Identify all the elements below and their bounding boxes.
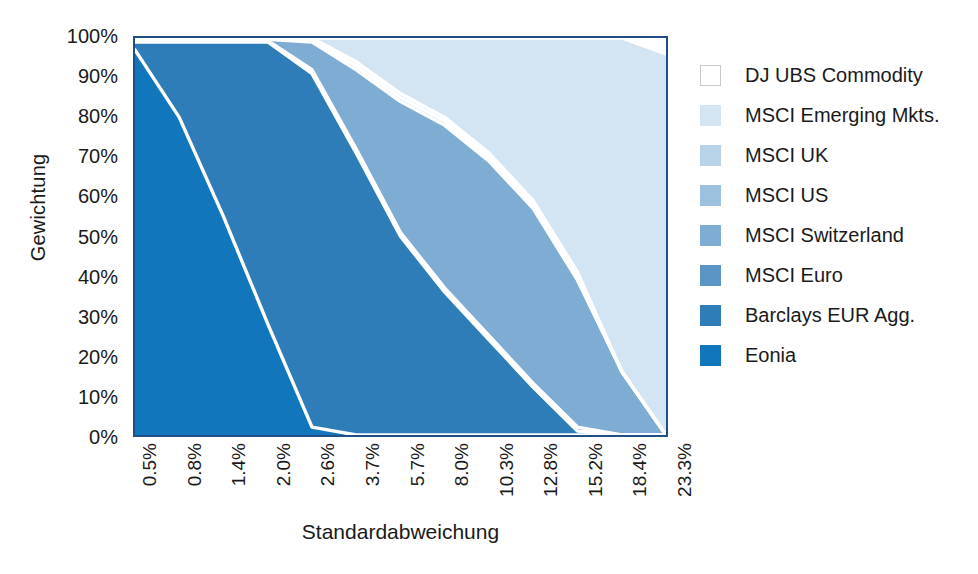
x-axis-tick: 3.7% <box>363 443 382 486</box>
legend-label: MSCI UK <box>745 145 828 165</box>
x-axis-tick-labels: 0.5%0.8%1.4%2.0%2.6%3.7%5.7%8.0%10.3%12.… <box>133 443 668 505</box>
x-axis-tick: 10.3% <box>497 443 516 497</box>
y-axis-tick: 70% <box>78 146 118 166</box>
x-axis-tick: 0.8% <box>185 443 204 486</box>
legend-swatch-icon <box>700 105 721 126</box>
chart-legend: DJ UBS CommodityMSCI Emerging Mkts.MSCI … <box>700 55 972 375</box>
x-axis-tick: 1.4% <box>229 443 248 486</box>
legend-swatch-icon <box>700 145 721 166</box>
y-axis-tick: 10% <box>78 387 118 407</box>
legend-label: MSCI US <box>745 185 828 205</box>
legend-swatch-icon <box>700 265 721 286</box>
x-axis-tick: 8.0% <box>452 443 471 486</box>
legend-swatch-icon <box>700 185 721 206</box>
x-axis-tick: 12.8% <box>541 443 560 497</box>
y-axis-tick: 40% <box>78 267 118 287</box>
y-axis-tick: 90% <box>78 66 118 86</box>
legend-swatch-icon <box>700 225 721 246</box>
stacked-area-svg <box>135 38 666 435</box>
legend-swatch-icon <box>700 305 721 326</box>
y-axis-tick: 100% <box>67 26 118 46</box>
plot-area <box>133 36 668 437</box>
x-axis-tick: 18.4% <box>630 443 649 497</box>
y-axis-tick: 60% <box>78 186 118 206</box>
legend-label: Eonia <box>745 345 796 365</box>
legend-label: DJ UBS Commodity <box>745 65 923 85</box>
legend-item[interactable]: MSCI US <box>700 175 972 215</box>
legend-item[interactable]: MSCI Switzerland <box>700 215 972 255</box>
legend-item[interactable]: Barclays EUR Agg. <box>700 295 972 335</box>
legend-swatch-icon <box>700 65 721 86</box>
x-axis-tick: 2.0% <box>274 443 293 486</box>
x-axis-tick: 23.3% <box>675 443 694 497</box>
legend-label: MSCI Emerging Mkts. <box>745 105 939 125</box>
x-axis-tick: 15.2% <box>586 443 605 497</box>
legend-label: Barclays EUR Agg. <box>745 305 915 325</box>
y-axis-tick: 0% <box>89 427 118 447</box>
y-axis-tick: 20% <box>78 347 118 367</box>
legend-item[interactable]: MSCI Emerging Mkts. <box>700 95 972 135</box>
y-axis-tick-labels: 100%90%80%70%60%50%40%30%20%10%0% <box>36 36 124 437</box>
legend-label: MSCI Euro <box>745 265 843 285</box>
y-axis-tick: 50% <box>78 227 118 247</box>
y-axis-tick: 80% <box>78 106 118 126</box>
x-axis-tick: 0.5% <box>140 443 159 486</box>
legend-item[interactable]: MSCI Euro <box>700 255 972 295</box>
legend-label: MSCI Switzerland <box>745 225 904 245</box>
legend-swatch-icon <box>700 345 721 366</box>
chart-figure: Gewichtung 100%90%80%70%60%50%40%30%20%1… <box>0 0 978 574</box>
x-axis-title: Standardabweichung <box>133 520 668 544</box>
legend-item[interactable]: MSCI UK <box>700 135 972 175</box>
x-axis-tick: 2.6% <box>318 443 337 486</box>
x-axis-tick: 5.7% <box>408 443 427 486</box>
y-axis-tick: 30% <box>78 307 118 327</box>
legend-item[interactable]: Eonia <box>700 335 972 375</box>
legend-item[interactable]: DJ UBS Commodity <box>700 55 972 95</box>
